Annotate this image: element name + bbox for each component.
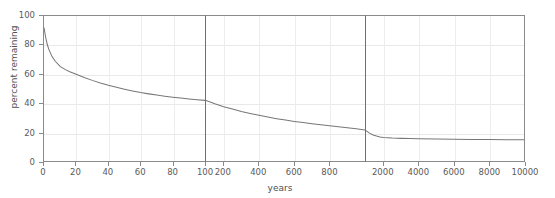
plot-area-2 bbox=[366, 16, 524, 161]
x-axis-tick bbox=[75, 162, 76, 166]
x-axis-tick bbox=[294, 162, 295, 166]
x-axis-tick-label: 600 bbox=[274, 168, 314, 177]
x-axis-tick bbox=[383, 162, 384, 166]
x-axis-tick-label: 10000 bbox=[505, 168, 545, 177]
plot-area-0 bbox=[44, 16, 205, 161]
y-axis-tick bbox=[39, 15, 43, 16]
x-axis-tick-label: 8000 bbox=[469, 168, 509, 177]
x-axis-tick bbox=[140, 162, 141, 166]
x-axis-tick-label: 400 bbox=[238, 168, 278, 177]
chart-panel-0 bbox=[43, 15, 205, 162]
data-series-line bbox=[206, 16, 365, 161]
y-axis-tick bbox=[39, 133, 43, 134]
chart-figure: 0204060801002004006008002000400060008000… bbox=[0, 0, 555, 198]
x-axis-tick bbox=[525, 162, 526, 166]
chart-panel-1 bbox=[205, 15, 365, 162]
x-axis-tick bbox=[258, 162, 259, 166]
x-axis-tick bbox=[329, 162, 330, 166]
x-axis-tick bbox=[454, 162, 455, 166]
x-axis-tick bbox=[108, 162, 109, 166]
y-axis-tick bbox=[39, 74, 43, 75]
x-axis-tick bbox=[43, 162, 44, 166]
y-axis-label: percent remaining bbox=[9, 7, 19, 127]
x-axis-tick bbox=[205, 162, 206, 166]
x-axis-tick-label: 4000 bbox=[398, 168, 438, 177]
plot-area-1 bbox=[206, 16, 365, 161]
y-axis-tick bbox=[39, 162, 43, 163]
x-axis-tick-label: 200 bbox=[203, 168, 243, 177]
y-axis-tick bbox=[39, 44, 43, 45]
y-axis-tick-label: 0 bbox=[5, 158, 35, 167]
x-axis-tick-label: 2000 bbox=[363, 168, 403, 177]
x-axis-tick-label: 6000 bbox=[434, 168, 474, 177]
chart-panel-2 bbox=[365, 15, 525, 162]
x-axis-tick-label: 800 bbox=[309, 168, 349, 177]
x-axis-tick bbox=[223, 162, 224, 166]
x-axis-label: years bbox=[250, 183, 310, 193]
data-series-line bbox=[366, 16, 524, 161]
x-axis-tick bbox=[489, 162, 490, 166]
x-axis-tick bbox=[418, 162, 419, 166]
y-axis-tick bbox=[39, 103, 43, 104]
y-axis-tick-label: 20 bbox=[5, 129, 35, 138]
x-axis-tick bbox=[173, 162, 174, 166]
data-series-line bbox=[44, 16, 205, 161]
